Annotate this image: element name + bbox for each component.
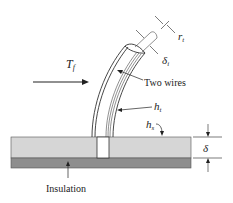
thermocouple-tube (92, 44, 145, 137)
h-tube-label: ht (154, 100, 163, 114)
plate-hole (97, 137, 109, 158)
insulation-layer (11, 158, 191, 168)
thickness-label: δ (203, 142, 209, 154)
insulation-thickness-dimension (136, 30, 158, 54)
h-surface-label: hs (146, 118, 155, 132)
wire-radius-label: rt (178, 30, 185, 44)
diagram-canvas: Tf Two wires ht hs δ Insulation rt δi (0, 0, 233, 203)
fluid-flow-arrow (33, 79, 89, 85)
thermocouple-diagram: Tf Two wires ht hs δ Insulation rt δi (0, 0, 233, 203)
wire-radius-dimension (155, 16, 175, 33)
fluid-temp-label: Tf (66, 57, 77, 72)
h-tube-arrow (120, 107, 152, 110)
insulation-label: Insulation (46, 183, 86, 194)
insulation-thickness-label: δi (162, 54, 169, 68)
two-wires-label: Two wires (144, 77, 186, 88)
